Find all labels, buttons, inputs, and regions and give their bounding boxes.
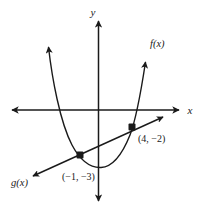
point-marker-intersection-left [77, 152, 84, 159]
point-marker-intersection-right [129, 124, 136, 131]
x-axis-label: x [187, 104, 193, 116]
curve-label-gx: g(x) [11, 177, 28, 189]
curve-label-fx: f(x) [150, 38, 165, 50]
y-axis-label: y [90, 6, 96, 18]
point-label-intersection-left: (−1, −3) [62, 171, 95, 183]
point-label-intersection-right: (4, −2) [138, 133, 165, 145]
coordinate-plane-svg: y x f(x) g(x) (−1, −3) (4, −2) [0, 0, 208, 210]
parabola-fx [49, 47, 146, 168]
graph-figure: y x f(x) g(x) (−1, −3) (4, −2) [0, 0, 208, 210]
